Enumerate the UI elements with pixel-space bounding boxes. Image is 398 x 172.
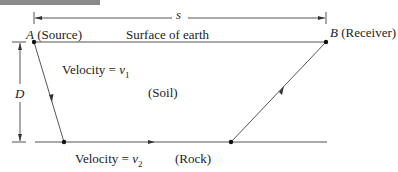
layer1-velocity-label: Velocity = v1 (62, 63, 129, 80)
layer2-velocity-sub: 2 (138, 159, 143, 169)
distance-label: s (176, 8, 181, 21)
layer2-velocity-label: Velocity = v2 (75, 152, 142, 169)
source-label: A (Source) (26, 28, 82, 41)
depth-label: D (15, 87, 24, 100)
point-b-desc: (Receiver) (341, 25, 396, 40)
ray-arrow-right-icon (148, 140, 155, 144)
refraction-point-2 (229, 140, 233, 144)
surface-label: Surface of earth (126, 28, 209, 41)
ray-path (34, 42, 326, 144)
refraction-point-1 (62, 140, 66, 144)
layer1-velocity-prefix: Velocity = (62, 62, 119, 77)
point-a-desc: (Source) (37, 27, 82, 42)
rock-label: (Rock) (175, 152, 211, 165)
layer2-velocity-prefix: Velocity = (75, 151, 132, 166)
point-b (324, 40, 328, 44)
receiver-label: B (Receiver) (330, 26, 396, 39)
point-b-label: B (330, 25, 338, 40)
layer1-velocity-sub: 1 (125, 70, 130, 80)
point-a-label: A (26, 27, 34, 42)
soil-label: (Soil) (148, 86, 178, 99)
